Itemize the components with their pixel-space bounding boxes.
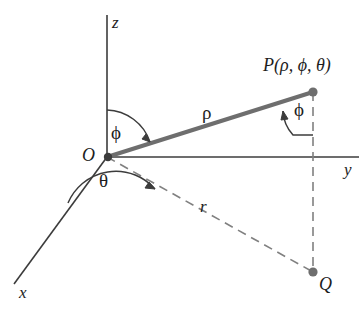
x-axis-label: x bbox=[19, 284, 27, 301]
r-dashed-line bbox=[107, 157, 313, 272]
phi-point-label: ϕ bbox=[294, 100, 304, 119]
y-axis-label: y bbox=[344, 161, 352, 178]
point-p-dot bbox=[308, 87, 317, 96]
phi-point-arrowhead bbox=[281, 111, 288, 120]
origin-point-dot bbox=[104, 153, 112, 161]
point-q-dot bbox=[308, 267, 317, 276]
z-axis-label: z bbox=[112, 14, 119, 31]
rho-label: ρ bbox=[202, 103, 211, 122]
theta-arc bbox=[68, 171, 155, 203]
r-label: r bbox=[200, 198, 207, 215]
point-q-label: Q bbox=[319, 275, 332, 293]
point-p-label: P(ρ, ϕ, θ) bbox=[263, 56, 331, 74]
phi-origin-label: ϕ bbox=[111, 123, 121, 142]
origin-label: O bbox=[82, 146, 95, 164]
spherical-coordinates-figure: z y x O P(ρ, ϕ, θ) Q ρ r ϕ ϕ θ bbox=[0, 0, 361, 316]
diagram-canvas bbox=[0, 0, 361, 316]
theta-label: θ bbox=[99, 171, 108, 190]
